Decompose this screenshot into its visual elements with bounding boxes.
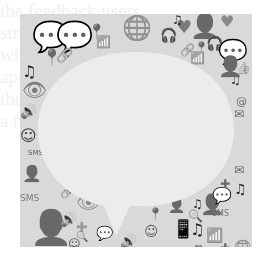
blank-speech-bubble [20,14,252,247]
social-media-mosaic-image: 💬💬🌐👤♥♥🎧🎧💬♫📍📍📍🔗🔗♫♫👤👍👍👁🔊📶📶☺✉@SMS👤SMS👤👁🔗✚💬☺… [20,14,252,247]
